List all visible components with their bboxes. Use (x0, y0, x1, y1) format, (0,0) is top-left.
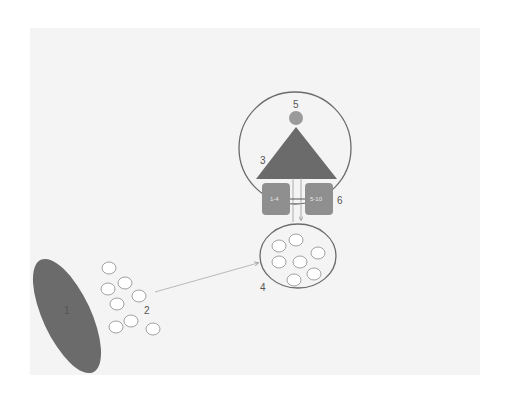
label-1: 1 (64, 305, 70, 316)
dark-triangle (256, 127, 337, 179)
box-left-label: 1-4 (270, 196, 279, 202)
diagram-canvas: 1 2 5 3 1-4 5-10 6 4 (0, 0, 508, 399)
large-dark-ellipse (19, 250, 115, 383)
contained-circles (272, 234, 325, 286)
white-circle-group (101, 262, 160, 335)
label-3: 3 (260, 155, 266, 166)
label-5: 5 (293, 99, 299, 110)
small-gray-circle (289, 111, 303, 125)
label-2: 2 (144, 305, 150, 316)
label-6: 6 (337, 195, 343, 206)
box-right-label: 5-10 (310, 196, 323, 202)
label-4: 4 (260, 282, 266, 293)
arrow-2-to-4 (155, 263, 258, 292)
